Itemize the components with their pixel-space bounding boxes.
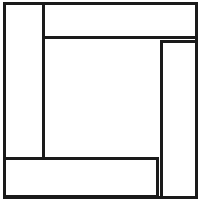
- figure-container: Pinwheel Square Line Figure A square out…: [0, 0, 202, 209]
- right-band-fill: [162, 42, 197, 198]
- bottom-band-fill: [6, 159, 158, 197]
- pinwheel-diagram: [0, 0, 202, 209]
